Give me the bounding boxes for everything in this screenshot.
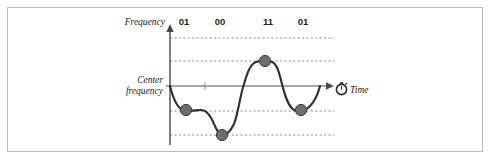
- figure-root: Frequency Center frequency 01 00 11 01 T…: [0, 0, 491, 160]
- bit-label-4: 01: [298, 16, 309, 27]
- center-frequency-label-line1: Center: [137, 75, 163, 85]
- center-frequency-label-line2: frequency: [126, 86, 164, 96]
- symbol-marker-4: [295, 104, 306, 115]
- bit-label-2: 00: [215, 16, 226, 27]
- fsk-waveform-curve: [170, 61, 320, 136]
- frequency-axis-label: Frequency: [124, 17, 166, 27]
- symbol-markers: [180, 55, 306, 140]
- stopwatch-icon: [336, 82, 347, 94]
- symbol-marker-2: [216, 129, 227, 140]
- time-axis-arrowhead: [326, 82, 334, 90]
- center-frequency-axis: [166, 82, 334, 90]
- time-axis-label: Time: [350, 85, 368, 95]
- bit-label-1: 01: [179, 16, 190, 27]
- fsk-waveform-chart: Frequency Center frequency 01 00 11 01 T…: [0, 0, 491, 160]
- frequency-axis-arrowhead: [166, 24, 173, 32]
- frequency-axis: [166, 24, 173, 145]
- symbol-marker-1: [180, 104, 191, 115]
- symbol-marker-3: [259, 55, 270, 66]
- bit-label-3: 11: [263, 16, 274, 27]
